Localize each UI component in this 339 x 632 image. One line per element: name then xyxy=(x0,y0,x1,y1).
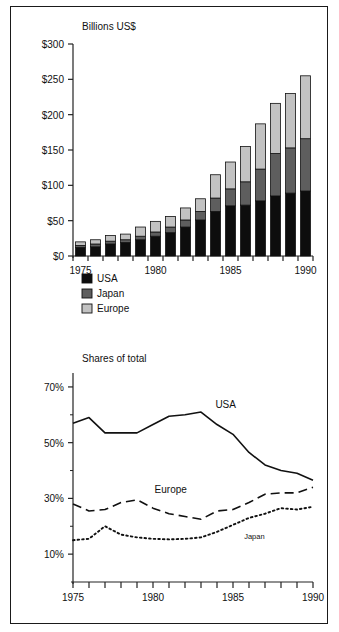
legend-item-usa: USA xyxy=(82,273,118,284)
bar-segment-japan xyxy=(226,189,236,206)
bar-segment-usa xyxy=(286,193,296,256)
bar-stack xyxy=(136,227,146,256)
legend-swatch-europe xyxy=(82,304,92,313)
bar-stack xyxy=(211,175,221,256)
bar-segment-europe xyxy=(211,175,221,198)
line-chart-title: Shares of total xyxy=(82,353,146,364)
line-y-tick-label: 30% xyxy=(44,493,64,504)
bar-segment-europe xyxy=(196,199,206,212)
bar-stack xyxy=(271,103,281,256)
bar-segment-europe xyxy=(121,234,131,240)
bar-segment-usa xyxy=(196,220,206,256)
line-series-europe xyxy=(73,487,313,519)
bar-segment-usa xyxy=(76,248,86,256)
line-series-japan xyxy=(73,507,313,540)
bar-segment-usa xyxy=(181,227,191,256)
bar-segment-europe xyxy=(181,208,191,220)
bar-segment-europe xyxy=(136,227,146,236)
bar-segment-japan xyxy=(241,182,251,205)
bar-y-tick-label: $0 xyxy=(53,251,65,262)
bar-segment-japan xyxy=(121,240,131,243)
bar-segment-usa xyxy=(106,244,116,256)
bar-segment-usa xyxy=(121,243,131,256)
bar-segment-usa xyxy=(166,233,176,256)
line-x-tick-label: 1990 xyxy=(302,592,325,603)
line-chart-svg: Shares of total10%30%50%70%1975198019851… xyxy=(10,340,328,624)
bar-y-tick-label: $50 xyxy=(47,216,64,227)
line-y-tick-label: 10% xyxy=(44,549,64,560)
bar-segment-europe xyxy=(286,93,296,147)
line-y-tick-label: 50% xyxy=(44,438,64,449)
bar-segment-japan xyxy=(286,148,296,193)
bar-stack xyxy=(226,162,236,256)
bar-stack xyxy=(91,240,101,256)
line-x-tick-label: 1985 xyxy=(222,592,245,603)
bar-y-tick-label: $200 xyxy=(42,110,65,121)
bar-segment-europe xyxy=(166,216,176,227)
bar-y-tick-label: $300 xyxy=(42,39,65,50)
bar-segment-japan xyxy=(166,227,176,233)
bar-stack xyxy=(121,234,131,256)
bar-segment-europe xyxy=(241,146,251,181)
bar-segment-europe xyxy=(226,162,236,189)
bar-segment-japan xyxy=(211,198,221,211)
line-annotation-europe: Europe xyxy=(155,484,188,495)
bar-segment-europe xyxy=(76,242,86,246)
legend-swatch-japan xyxy=(82,289,92,298)
bar-segment-usa xyxy=(211,211,221,256)
figure-root: Billions US$$0$50$100$150$200$250$300197… xyxy=(0,0,339,632)
bar-segment-usa xyxy=(226,206,236,256)
bar-x-tick-label: 1985 xyxy=(219,265,242,276)
bar-stack xyxy=(151,221,161,256)
bar-segment-japan xyxy=(196,211,206,219)
bar-stack xyxy=(76,242,86,256)
bar-segment-usa xyxy=(256,201,266,256)
bar-segment-europe xyxy=(256,124,266,169)
bar-chart-panel: Billions US$$0$50$100$150$200$250$300197… xyxy=(10,6,328,336)
bar-segment-japan xyxy=(91,244,101,247)
bar-segment-europe xyxy=(271,103,281,153)
bar-stack xyxy=(196,199,206,256)
bar-segment-japan xyxy=(136,236,146,240)
bar-segment-europe xyxy=(106,236,116,242)
legend-item-europe: Europe xyxy=(82,303,130,314)
bar-stack xyxy=(286,93,296,256)
bar-segment-japan xyxy=(256,169,266,201)
bar-chart-title: Billions US$ xyxy=(82,21,136,32)
bar-segment-usa xyxy=(91,247,101,256)
legend-label-europe: Europe xyxy=(97,303,130,314)
legend-item-japan: Japan xyxy=(82,288,124,299)
bar-y-tick-label: $100 xyxy=(42,180,65,191)
legend-label-usa: USA xyxy=(97,273,118,284)
bar-x-tick-label: 1990 xyxy=(294,265,317,276)
bar-segment-usa xyxy=(151,236,161,256)
bar-segment-europe xyxy=(151,221,161,232)
legend-swatch-usa xyxy=(82,274,92,283)
bar-chart-svg: Billions US$$0$50$100$150$200$250$300197… xyxy=(10,6,328,336)
line-chart-panel: Shares of total10%30%50%70%1975198019851… xyxy=(10,340,328,624)
line-x-tick-label: 1975 xyxy=(62,592,85,603)
bar-segment-usa xyxy=(271,196,281,256)
bar-y-tick-label: $250 xyxy=(42,74,65,85)
bar-x-tick-label: 1980 xyxy=(144,265,167,276)
bar-stack xyxy=(166,216,176,256)
bar-segment-japan xyxy=(151,232,161,236)
legend-label-japan: Japan xyxy=(97,288,124,299)
bar-segment-europe xyxy=(301,76,311,139)
bar-segment-japan xyxy=(106,241,116,244)
bar-stack xyxy=(106,236,116,256)
line-series-usa xyxy=(73,412,313,480)
bar-segment-japan xyxy=(271,154,281,196)
bar-y-tick-label: $150 xyxy=(42,145,65,156)
bar-segment-japan xyxy=(181,220,191,227)
line-annotation-japan: Japan xyxy=(244,532,264,541)
bar-segment-usa xyxy=(241,205,251,256)
bar-stack xyxy=(256,124,266,256)
line-x-tick-label: 1980 xyxy=(142,592,165,603)
bar-segment-usa xyxy=(136,240,146,256)
line-annotation-usa: USA xyxy=(215,399,236,410)
bar-stack xyxy=(241,146,251,256)
bar-stack xyxy=(181,208,191,256)
bar-segment-usa xyxy=(301,191,311,256)
bar-stack xyxy=(301,76,311,256)
